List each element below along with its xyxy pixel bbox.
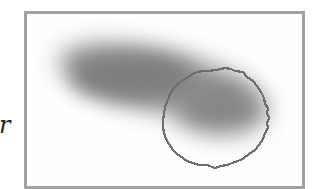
figure-frame (24, 11, 305, 189)
side-text-fragment: r (0, 113, 10, 137)
jagged-circle-outline (27, 14, 302, 186)
